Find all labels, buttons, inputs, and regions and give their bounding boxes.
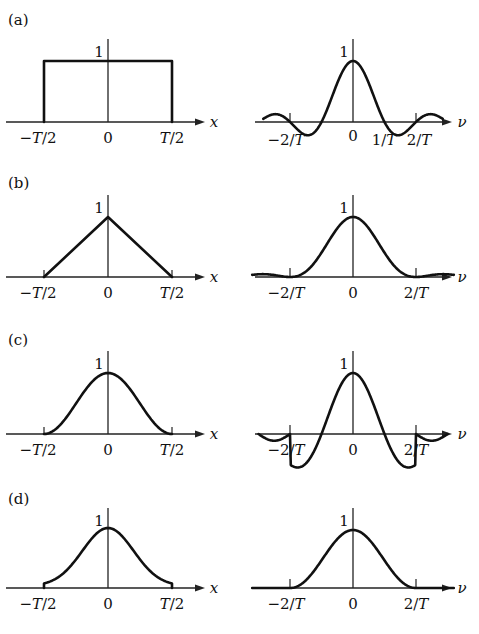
x-tick-label-neg: −T/2 (19, 284, 56, 302)
x-tick-label-pos: T/2 (160, 595, 185, 613)
y-tick-label-1: 1 (94, 199, 104, 217)
nu-tick-label-pos: 2/T (404, 284, 430, 302)
x-axis-label: x (210, 579, 219, 597)
figure-canvas: (a)x1−T/20T/2ν1−2/T01/T2/T(b)x1−T/20T/2ν… (0, 0, 479, 634)
x-axis-arrow-icon (195, 119, 205, 126)
panel-label: (b) (8, 174, 29, 192)
y-tick-label-1: 1 (339, 355, 349, 373)
panel-d (6, 508, 454, 592)
x-tick-label-zero: 0 (103, 595, 113, 613)
x-tick-label-pos: T/2 (160, 284, 185, 302)
panel-b-right-plot (252, 195, 454, 281)
nu-tick-label-neg: −2/T (267, 131, 305, 149)
panel-a (6, 39, 452, 135)
nu-tick-label-zero: 0 (348, 127, 358, 145)
x-tick-label-zero: 0 (103, 284, 113, 302)
x-tick-label-neg: −T/2 (19, 595, 56, 613)
x-axis-arrow-icon (195, 274, 205, 281)
x-tick-label-zero: 0 (103, 129, 113, 147)
y-tick-label-1: 1 (94, 512, 104, 530)
nu-tick-label-pos: 2/T (404, 441, 430, 459)
x-axis-label: x (210, 113, 219, 131)
panel-d-left-plot (6, 508, 205, 592)
x-axis-label: x (210, 268, 219, 286)
nu-tick-label-pos: 2/T (404, 595, 430, 613)
nu-tick-label-neg: −2/T (267, 595, 305, 613)
x-tick-label-neg: −T/2 (19, 129, 56, 147)
nu-tick-label-neg: −2/T (267, 441, 305, 459)
nu-tick-label-zero: 0 (348, 441, 358, 459)
x-tick-label-zero: 0 (103, 441, 113, 459)
nu-tick-label-neg: −2/T (267, 284, 305, 302)
y-tick-label-1: 1 (339, 512, 349, 530)
x-axis-arrow-icon (195, 431, 205, 438)
x-axis-label: x (210, 425, 219, 443)
nu-tick-label-zero: 0 (348, 595, 358, 613)
panel-a-right-plot (255, 39, 452, 135)
panel-label: (a) (8, 11, 29, 29)
x-tick-label-pos: T/2 (160, 441, 185, 459)
x-axis-arrow-icon (195, 585, 205, 592)
nu-axis-label: ν (457, 579, 466, 597)
nu-tick-label-zero: 0 (348, 284, 358, 302)
panel-a-left-plot (6, 39, 205, 126)
y-tick-label-1: 1 (339, 199, 349, 217)
x-tick-label-neg: −T/2 (19, 441, 56, 459)
x-tick-label-pos: T/2 (160, 129, 185, 147)
panel-d-right-plot (252, 508, 454, 592)
panel-c-left-plot (6, 351, 205, 438)
nu-axis-label: ν (457, 268, 466, 286)
panel-b-left-plot (6, 195, 205, 281)
panel-label: (d) (8, 490, 29, 508)
panel-c (6, 351, 452, 467)
nu-axis-label: ν (457, 113, 466, 131)
y-tick-label-1: 1 (339, 43, 349, 61)
nu-tick-label-pos: 2/T (407, 131, 433, 149)
nu-axis-label: ν (457, 425, 466, 443)
panel-b (6, 195, 454, 281)
panel-label: (c) (8, 331, 28, 349)
y-tick-label-1: 1 (94, 355, 104, 373)
y-tick-label-1: 1 (94, 43, 104, 61)
nu-tick-label-1T: 1/T (372, 131, 398, 149)
